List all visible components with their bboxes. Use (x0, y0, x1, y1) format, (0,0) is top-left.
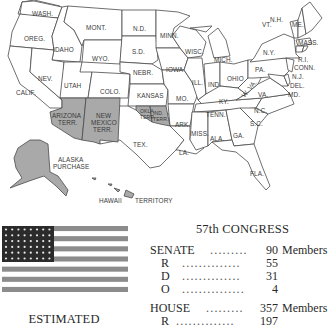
label-nj: N.J. (292, 73, 304, 80)
party-value: 4 (272, 283, 278, 296)
label-alaska-1: ALASKA (58, 156, 84, 163)
label-nh: N.H. (270, 16, 283, 23)
label-arizona-2: TERR. (58, 119, 78, 126)
label-kansas: KANSAS (137, 92, 164, 99)
label-del: DEL. (290, 82, 305, 89)
label-newmexico-3: TERR. (93, 126, 113, 133)
state-me (302, 2, 322, 34)
label-ri: R.I. (298, 56, 308, 63)
label-minn: MINN. (160, 32, 179, 39)
label-hawaii-2: TERRITORY (135, 197, 173, 204)
label-mo: MO. (176, 95, 188, 102)
senate-party-row: O ............... 4 (150, 283, 329, 296)
label-ny: N.Y. (263, 49, 275, 56)
label-colo: COLO. (100, 88, 121, 95)
label-mont: MONT. (86, 24, 107, 31)
label-mich: MICH. (214, 56, 233, 63)
label-indterr-2: TERR. (153, 116, 169, 122)
label-nc: N.C. (254, 107, 267, 114)
label-ark: ARK. (175, 121, 190, 128)
label-nebr: NEBR. (133, 69, 153, 76)
label-utah: UTAH (64, 82, 82, 89)
party-label: R (161, 315, 169, 328)
label-va: VA. (258, 91, 268, 98)
state-fla (212, 140, 270, 190)
label-ky: KY. (219, 98, 229, 105)
label-conn: CONN. (294, 64, 315, 71)
label-idaho: IDAHO (53, 46, 74, 53)
label-md: MD. (288, 91, 300, 98)
state-ny (250, 34, 300, 62)
label-calif: CALIF. (16, 89, 36, 96)
estimated-label: ESTIMATED (0, 312, 128, 327)
congress-title: 57th CONGRESS (156, 222, 329, 237)
label-ga: GA. (233, 132, 244, 139)
label-ind: IND. (208, 81, 221, 88)
label-fla: FLA. (250, 170, 264, 177)
label-pa: PA. (255, 66, 265, 73)
label-wyo: WYO. (92, 55, 110, 62)
us-flag-48-stars (2, 226, 128, 292)
label-newmexico-1: NEW (96, 112, 112, 119)
state-oreg (10, 14, 58, 50)
label-miss: MISS. (191, 130, 209, 137)
label-nev: NEV. (38, 75, 53, 82)
label-wisc: WISC. (185, 48, 204, 55)
us-map-1901: WASH. OREG. CALIF. IDAHO NEV. MONT. WYO.… (0, 0, 329, 210)
label-ohio: OHIO (227, 75, 244, 82)
label-mass: MASS. (298, 39, 319, 46)
label-newmexico-2: MEXICO (91, 119, 117, 126)
label-nd: N.D. (133, 25, 146, 32)
congress-panel: 57th CONGRESS SENATE ......... 90Members… (150, 222, 329, 328)
state-utah (60, 62, 92, 98)
label-iowa: IOWA (166, 66, 184, 73)
party-value: 197 (260, 315, 278, 328)
state-nd (122, 10, 156, 36)
label-me: ME. (292, 21, 304, 28)
label-sc: S.C. (250, 120, 263, 127)
flag-canton (2, 226, 54, 262)
label-tenn: TENN. (206, 111, 226, 118)
party-label: O (161, 283, 170, 296)
label-arizona-1: ARIZONA (52, 112, 82, 119)
label-alaska-2: PURCHASE (53, 163, 89, 170)
territory-hawaii (92, 178, 134, 198)
label-ala: ALA. (210, 135, 224, 142)
label-la: LA. (179, 149, 189, 156)
party-dots: .............. (176, 315, 235, 328)
label-hawaii-1: HAWAII (99, 197, 122, 204)
house-party-row: R .............. 197 (150, 315, 329, 328)
party-dots: ............... (182, 283, 245, 296)
label-ill: ILL. (192, 79, 203, 86)
label-wash: WASH. (32, 10, 53, 17)
label-tex: TEX. (133, 141, 148, 148)
label-oreg: OREG. (24, 35, 45, 42)
label-sd: S.D. (132, 48, 145, 55)
